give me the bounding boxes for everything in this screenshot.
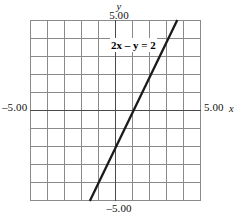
x-axis-name-label: x	[229, 103, 234, 114]
x-axis-max-label: 5.00	[204, 102, 224, 114]
equation-annotation: 2x – y = 2	[110, 38, 157, 52]
y-axis-max-label: 5.00	[0, 10, 238, 22]
y-axis-min-label: –5.00	[0, 203, 238, 215]
graph-figure: y 5.00 –5.00 –5.00 5.00 x 2x – y = 2	[0, 0, 238, 221]
coordinate-plane	[0, 0, 238, 221]
x-axis-min-label: –5.00	[2, 102, 27, 114]
